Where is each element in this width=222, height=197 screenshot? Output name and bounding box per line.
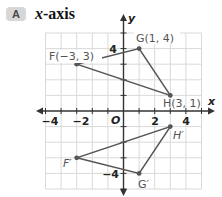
tick-x-4: 4 xyxy=(182,115,190,128)
label-h: H(3, 1) xyxy=(163,97,201,110)
label-g-prime: G′ xyxy=(138,178,150,191)
x-axis-left-arrow-icon xyxy=(36,108,43,115)
x-axis-right-arrow-icon xyxy=(208,108,215,115)
label-h-prime: H′ xyxy=(173,129,184,142)
coordinate-plane: F(−3, 3) G(1, 4) H(3, 1) F′ G′ H′ x y O … xyxy=(0,0,222,197)
tick-y-neg4: −4 xyxy=(102,168,119,181)
tick-x-neg4: −4 xyxy=(42,115,59,128)
vertex-f-prime xyxy=(74,155,79,160)
tick-y-4: 4 xyxy=(109,43,117,56)
vertex-h-prime xyxy=(168,124,173,129)
label-f-prime: F′ xyxy=(63,157,72,170)
tick-x-neg2: −2 xyxy=(73,115,90,128)
label-f: F(−3, 3) xyxy=(49,50,94,63)
tick-x-2: 2 xyxy=(151,115,159,128)
y-axis-down-arrow-icon xyxy=(120,189,127,196)
vertex-g-prime xyxy=(137,171,142,176)
vertex-g xyxy=(137,46,142,51)
x-axis-label: x xyxy=(207,95,216,108)
y-axis-up-arrow-icon xyxy=(120,14,127,21)
y-axis-label: y xyxy=(128,12,136,25)
label-g: G(1, 4) xyxy=(136,32,174,45)
origin-label: O xyxy=(111,114,120,127)
